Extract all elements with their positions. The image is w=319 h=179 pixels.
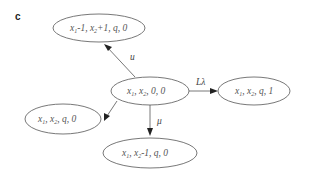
node-left: x1, x2, q, 0 (25, 104, 101, 134)
node-center: x1, x2, 0, 0 (111, 77, 189, 105)
node-top: x1-1, x2+1, q, 0 (53, 14, 145, 42)
edge-to-left (104, 101, 117, 121)
arrowhead-icon (104, 113, 110, 121)
node-right: x1, x2, q, 1 (218, 77, 290, 105)
svg-text:x1-1, x2+1, q, 0: x1-1, x2+1, q, 0 (69, 23, 128, 34)
arrowhead-icon (210, 88, 218, 94)
edge-label-lambda: Lλ (195, 77, 205, 87)
edge-to-right: Lλ (189, 77, 218, 94)
edge-label-mu: μ (156, 116, 162, 126)
panel-label: c (15, 11, 21, 22)
node-bottom: x1, x2-1, q, 0 (103, 138, 197, 168)
edge-label-u: u (130, 52, 135, 62)
edge-to-bottom: μ (147, 105, 162, 136)
state-transition-diagram: c u Lλ μ x1-1, x2+1, q, 0 x1, x2, 0, 0 x… (0, 0, 319, 179)
arrowhead-icon (104, 44, 112, 51)
arrowhead-icon (147, 128, 153, 136)
edge-to-top: u (104, 44, 135, 77)
